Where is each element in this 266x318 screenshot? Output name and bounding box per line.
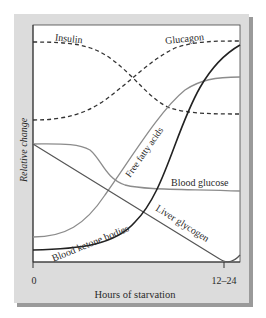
x-tick-end-label: 12–24 — [212, 275, 237, 286]
blood-glucose-label: Blood glucose — [171, 177, 229, 188]
x-tick-start-label: 0 — [32, 275, 37, 286]
plot-area — [33, 25, 240, 262]
starvation-hormone-chart: Insulin Glucagon Free fatty acids Blood … — [0, 0, 266, 318]
y-axis-label: Relative change — [18, 117, 29, 183]
x-axis-label: Hours of starvation — [94, 289, 176, 300]
